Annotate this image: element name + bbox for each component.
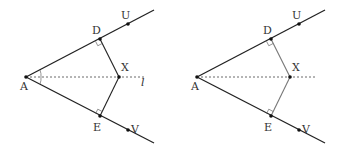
point-D [269, 37, 273, 41]
label-E: E [264, 121, 272, 134]
label-A: A [19, 80, 29, 93]
angle-bisector-diagram: ADXEUVlADXEUV [0, 0, 343, 157]
point-D [98, 37, 102, 41]
point-A [195, 75, 199, 79]
label-V: V [130, 123, 140, 136]
point-E [98, 114, 102, 118]
point-X [288, 75, 292, 79]
label-U: U [121, 9, 130, 22]
label-A: A [190, 80, 200, 93]
segment-DX [100, 39, 119, 77]
point-U [297, 22, 301, 26]
point-A [24, 75, 28, 79]
label-V: V [301, 123, 311, 136]
segment-DX [271, 39, 290, 77]
point-U [126, 22, 130, 26]
label-D: D [92, 24, 101, 37]
ray-AU [26, 10, 154, 77]
label-l: l [141, 76, 145, 89]
point-X [117, 75, 121, 79]
label-D: D [263, 24, 272, 37]
angle-arc-upper [40, 70, 41, 77]
label-X: X [121, 61, 129, 74]
segment-EX [271, 77, 290, 116]
label-U: U [292, 9, 301, 22]
point-V [126, 128, 130, 132]
ray-AU [197, 10, 325, 77]
label-E: E [93, 121, 101, 134]
point-V [297, 128, 301, 132]
label-X: X [292, 61, 300, 74]
angle-arc-lower [40, 77, 41, 84]
diagram-svg: ADXEUVlADXEUV [0, 0, 343, 157]
segment-EX [100, 77, 119, 116]
point-E [269, 114, 273, 118]
